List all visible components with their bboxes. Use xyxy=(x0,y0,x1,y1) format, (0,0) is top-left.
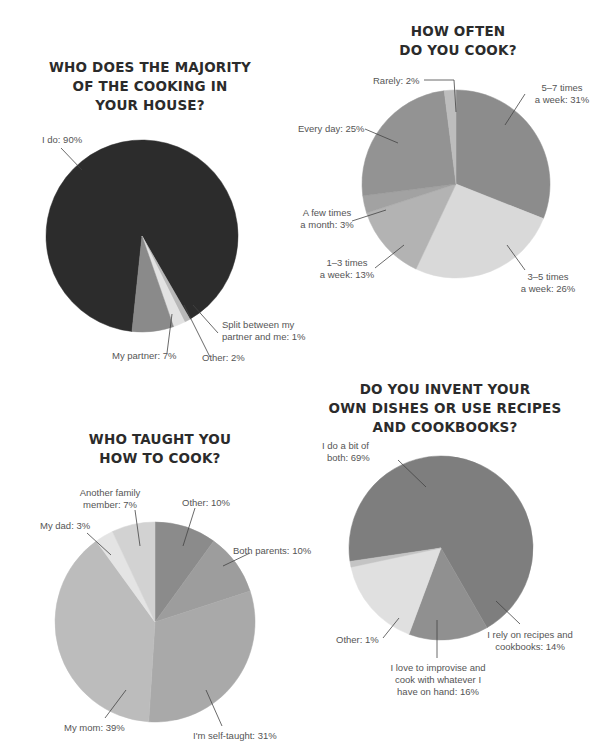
label-line: 5–7 times xyxy=(520,82,604,94)
chart-title-cooking-frequency: HOW OFTEN DO YOU COOK? xyxy=(368,22,548,60)
title-line: HOW OFTEN xyxy=(368,22,548,41)
slice-label-5-7-times: 5–7 times a week: 31% xyxy=(520,82,604,106)
slice-label-rely-on-recipes: I rely on recipes and cookbooks: 14% xyxy=(480,629,580,653)
pie-chart-who-taught xyxy=(55,522,255,722)
label-line: a month: 3% xyxy=(292,219,362,231)
slice-label-another-family-member: Another family member: 7% xyxy=(70,487,150,511)
leader-line xyxy=(193,305,218,333)
label-line: partner and me: 1% xyxy=(222,331,305,343)
label-line: Another family xyxy=(70,487,150,499)
label-line: a week: 31% xyxy=(520,94,604,106)
label-line: have on hand: 16% xyxy=(383,686,493,698)
chart-title-who-taught: WHO TAUGHT YOU HOW TO COOK? xyxy=(60,430,260,468)
slice-label-my-partner: My partner: 7% xyxy=(112,350,176,362)
title-line: HOW TO COOK? xyxy=(60,449,260,468)
chart-title-invent-or-recipes: DO YOU INVENT YOUR OWN DISHES OR USE REC… xyxy=(325,380,565,437)
label-line: both: 69% xyxy=(322,452,370,464)
label-line: A few times xyxy=(292,207,362,219)
slice-label-bit-of-both: I do a bit of both: 69% xyxy=(322,440,370,464)
pie-chart-cooking-frequency xyxy=(362,90,550,278)
slice-label-my-mom: My mom: 39% xyxy=(64,722,125,734)
slice-label-my-dad: My dad: 3% xyxy=(40,520,90,532)
label-line: 3–5 times xyxy=(508,271,588,283)
slice-label-self-taught: I'm self-taught: 31% xyxy=(193,730,277,742)
slice-label-1-3-times: 1–3 times a week: 13% xyxy=(312,257,382,281)
title-line: OF THE COOKING IN xyxy=(40,77,260,96)
title-line: DO YOU INVENT YOUR xyxy=(325,380,565,399)
label-line: I love to improvise and xyxy=(383,662,493,674)
slice-label-other: Other: 2% xyxy=(202,352,245,364)
label-line: Split between my xyxy=(222,319,305,331)
label-line: I rely on recipes and xyxy=(480,629,580,641)
slice-label-i-do: I do: 90% xyxy=(42,134,82,146)
pie-slice xyxy=(362,91,456,196)
slice-label-other: Other: 1% xyxy=(336,634,379,646)
title-line: AND COOKBOOKS? xyxy=(325,418,565,437)
slice-label-split: Split between my partner and me: 1% xyxy=(222,319,305,343)
label-line: member: 7% xyxy=(70,499,150,511)
slice-label-rarely: Rarely: 2% xyxy=(373,75,419,87)
label-line: cook with whatever I xyxy=(383,674,493,686)
label-line: I do a bit of xyxy=(322,440,370,452)
pie-chart-invent-or-recipes xyxy=(349,456,533,640)
slice-label-3-5-times: 3–5 times a week: 26% xyxy=(508,271,588,295)
label-line: a week: 13% xyxy=(312,269,382,281)
slice-label-other: Other: 10% xyxy=(182,497,230,509)
title-line: DO YOU COOK? xyxy=(368,41,548,60)
slice-label-few-times-month: A few times a month: 3% xyxy=(292,207,362,231)
title-line: YOUR HOUSE? xyxy=(40,96,260,115)
title-line: OWN DISHES OR USE RECIPES xyxy=(325,399,565,418)
pie-chart-house-cooking xyxy=(46,140,238,332)
title-line: WHO DOES THE MAJORITY xyxy=(40,58,260,77)
chart-title-house-cooking: WHO DOES THE MAJORITY OF THE COOKING IN … xyxy=(40,58,260,115)
slice-label-both-parents: Both parents: 10% xyxy=(233,545,311,557)
label-line: a week: 26% xyxy=(508,283,588,295)
leader-line xyxy=(61,148,82,170)
slice-label-every-day: Every day: 25% xyxy=(298,123,365,135)
label-line: cookbooks: 14% xyxy=(480,641,580,653)
label-line: 1–3 times xyxy=(312,257,382,269)
slice-label-improvise: I love to improvise and cook with whatev… xyxy=(383,662,493,698)
title-line: WHO TAUGHT YOU xyxy=(60,430,260,449)
